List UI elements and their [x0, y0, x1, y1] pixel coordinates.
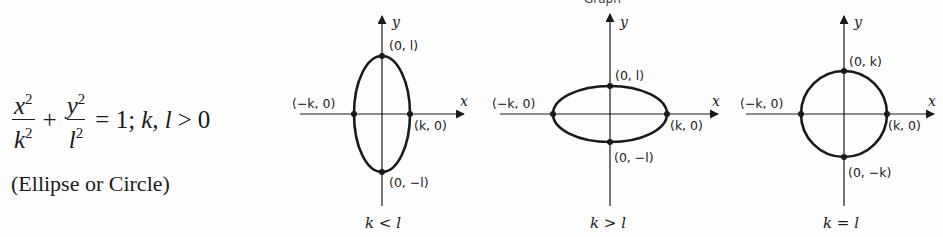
graph-caption: k = l [823, 214, 859, 232]
point-label-right: (k, 0) [670, 118, 703, 133]
graph-k-greater-than-l: y x (0, l) (0, −l) (−k, 0) (k, 0) k > l [492, 14, 720, 232]
vertex-dot [607, 139, 613, 145]
graph-k-equals-l: y x (0, k) (0, −k) (−k, 0) (k, 0) k = l [740, 14, 936, 232]
point-label-top: (0, l) [615, 68, 644, 83]
x-axis-label: x [712, 93, 720, 109]
point-label-bottom: (0, −l) [389, 175, 429, 190]
vertex-dot [379, 53, 385, 59]
y-axis-label: y [391, 14, 401, 30]
vertex-dot [351, 111, 357, 117]
point-label-bottom: (0, −l) [614, 150, 654, 165]
point-label-left: (−k, 0) [292, 96, 335, 111]
graph-caption: k < l [365, 214, 401, 232]
point-label-bottom: (0, −k) [848, 165, 891, 180]
x-axis-label: x [928, 93, 936, 109]
vertex-dot [550, 111, 556, 117]
vertex-dot [379, 169, 385, 175]
vertex-dot [841, 154, 847, 160]
vertex-dot [607, 83, 613, 89]
vertex-dot [798, 111, 804, 117]
point-label-right: (k, 0) [414, 118, 447, 133]
vertex-dot [884, 111, 890, 117]
y-axis-label: y [619, 14, 629, 30]
point-label-left: (−k, 0) [740, 96, 783, 111]
point-label-top: (0, k) [849, 54, 882, 69]
ellipse-graphs: y x (0, l) (0, −l) (−k, 0) (k, 0) k < l … [0, 0, 943, 237]
vertex-dot [841, 68, 847, 74]
x-axis-label: x [460, 93, 468, 109]
vertex-dot [664, 111, 670, 117]
graph-caption: k > l [590, 214, 626, 232]
y-axis-label: y [853, 14, 863, 30]
point-label-top: (0, l) [389, 38, 418, 53]
graph-k-less-than-l: y x (0, l) (0, −l) (−k, 0) (k, 0) k < l [292, 14, 468, 232]
vertex-dot [407, 111, 413, 117]
point-label-right: (k, 0) [888, 118, 921, 133]
point-label-left: (−k, 0) [492, 96, 535, 111]
